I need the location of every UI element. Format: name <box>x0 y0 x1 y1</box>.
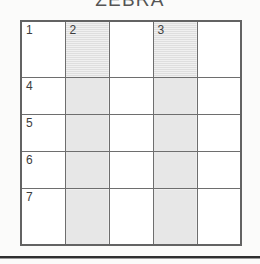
crossword-grid-container: 1 2 3 4 5 <box>20 20 242 246</box>
crossword-grid-body: 1 2 3 4 5 <box>21 21 241 245</box>
grid-cell-r3c4[interactable] <box>153 114 197 151</box>
grid-cell-r1c1[interactable]: 1 <box>21 21 65 77</box>
puzzle-title: ZEBRA <box>0 0 260 11</box>
cell-number: 2 <box>70 23 77 37</box>
page-divider-rule-shadow <box>0 258 260 259</box>
grid-cell-r1c5[interactable] <box>197 21 241 77</box>
page-canvas: ZEBRA 1 2 3 4 5 <box>0 0 260 264</box>
grid-cell-r5c1[interactable]: 7 <box>21 189 65 245</box>
grid-cell-r3c5[interactable] <box>197 114 241 151</box>
cell-number: 1 <box>26 23 33 37</box>
grid-cell-r3c1[interactable]: 5 <box>21 114 65 151</box>
cell-number: 3 <box>158 23 165 37</box>
grid-cell-r1c4[interactable]: 3 <box>153 21 197 77</box>
grid-cell-r5c2[interactable] <box>65 189 109 245</box>
grid-cell-r4c1[interactable]: 6 <box>21 152 65 189</box>
grid-cell-r2c1[interactable]: 4 <box>21 77 65 114</box>
grid-cell-r5c3[interactable] <box>109 189 153 245</box>
grid-cell-r3c2[interactable] <box>65 114 109 151</box>
grid-row: 5 <box>21 114 241 151</box>
grid-cell-r4c4[interactable] <box>153 152 197 189</box>
grid-row: 4 <box>21 77 241 114</box>
grid-cell-r5c5[interactable] <box>197 189 241 245</box>
grid-cell-r4c3[interactable] <box>109 152 153 189</box>
cell-number: 5 <box>26 116 33 130</box>
grid-cell-r4c5[interactable] <box>197 152 241 189</box>
cell-number: 4 <box>26 79 33 93</box>
grid-cell-r1c3[interactable] <box>109 21 153 77</box>
grid-cell-r4c2[interactable] <box>65 152 109 189</box>
puzzle-title-clip: ZEBRA <box>0 0 260 12</box>
crossword-grid: 1 2 3 4 5 <box>20 20 242 246</box>
grid-cell-r5c4[interactable] <box>153 189 197 245</box>
grid-cell-r3c3[interactable] <box>109 114 153 151</box>
grid-cell-r2c4[interactable] <box>153 77 197 114</box>
grid-row: 1 2 3 <box>21 21 241 77</box>
cell-number: 7 <box>26 190 33 204</box>
grid-cell-r2c2[interactable] <box>65 77 109 114</box>
grid-row: 6 <box>21 152 241 189</box>
grid-cell-r1c2[interactable]: 2 <box>65 21 109 77</box>
grid-cell-r2c5[interactable] <box>197 77 241 114</box>
grid-row: 7 <box>21 189 241 245</box>
grid-cell-r2c3[interactable] <box>109 77 153 114</box>
cell-number: 6 <box>26 153 33 167</box>
